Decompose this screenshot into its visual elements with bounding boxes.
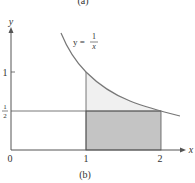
y-axis-arrow-icon [9, 27, 14, 33]
y-tick-label-half: 1 2 [2, 103, 8, 120]
x-tick-label-0: 0 [8, 153, 13, 164]
partial-caption-a: (a) [77, 0, 88, 7]
svg-text:1: 1 [92, 32, 96, 41]
y-axis-label: y [8, 16, 14, 27]
svg-text:2: 2 [3, 112, 7, 120]
y-tick-label-1: 1 [3, 67, 8, 78]
svg-text:x: x [91, 42, 96, 51]
figure-caption: (b) [79, 169, 91, 181]
x-tick-label-2: 2 [158, 153, 163, 164]
svg-text:y =: y = [73, 37, 85, 47]
svg-text:1: 1 [3, 103, 7, 111]
x-axis-arrow-icon [180, 148, 186, 153]
upper-shaded-region [86, 72, 161, 111]
curve-label: y = 1 x [73, 32, 98, 51]
x-tick-label-1: 1 [84, 153, 89, 164]
x-axis-label: x [188, 144, 194, 155]
lower-shaded-rectangle [86, 111, 161, 150]
figure-canvas: (a) y x 0 1 2 1 1 2 y = 1 x (b) [0, 0, 195, 183]
